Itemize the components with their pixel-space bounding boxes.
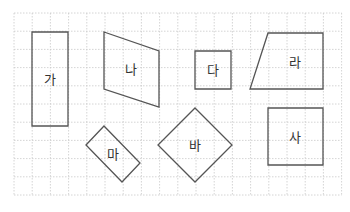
shape-label: 가	[44, 72, 56, 87]
shape-label: 나	[125, 62, 137, 77]
grid-paper	[14, 13, 342, 195]
shape-label: 사	[289, 130, 301, 145]
shape-label: 라	[289, 55, 301, 70]
shape-label: 다	[207, 63, 219, 78]
shape-label: 마	[107, 147, 119, 162]
shape-grid-diagram: 가나다라마바사	[0, 0, 350, 212]
shape-label: 바	[189, 138, 201, 153]
shape-4	[250, 33, 323, 89]
